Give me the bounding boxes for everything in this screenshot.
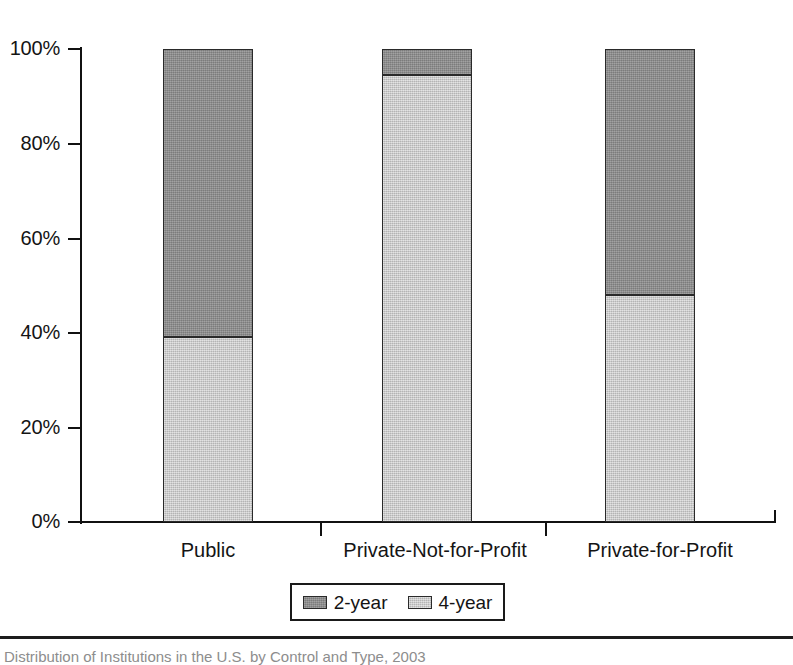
legend-label-4year: 4-year [439, 593, 493, 612]
legend-swatch-2year-icon [303, 596, 327, 609]
bar-segment-private-for-profit-2year [605, 49, 695, 295]
y-axis-label-80: 80% [0, 133, 60, 153]
y-axis-label-0: 0% [0, 511, 60, 531]
bar-segment-private-not-for-profit-2year [382, 49, 472, 75]
figure-caption: Distribution of Institutions in the U.S.… [4, 648, 784, 665]
y-axis-tick-60 [68, 238, 80, 240]
x-axis-start-cap [80, 510, 82, 523]
y-axis-line [80, 47, 82, 524]
x-axis-category-label-private-not-for-profit: Private-Not-for-Profit [330, 539, 540, 561]
x-axis-separator-2 [545, 523, 547, 536]
legend-entry-4year: 4-year [408, 593, 493, 612]
bar-private-not-for-profit [382, 49, 472, 522]
x-axis-separator-1 [320, 523, 322, 536]
legend-label-2year: 2-year [334, 593, 388, 612]
bar-segment-private-for-profit-4year [605, 295, 695, 522]
bar-private-for-profit [605, 49, 695, 522]
y-axis-tick-40 [68, 332, 80, 334]
y-axis-label-20: 20% [0, 417, 60, 437]
bar-public [163, 49, 253, 522]
bar-segment-public-2year [163, 49, 253, 337]
y-axis-tick-100 [68, 48, 80, 50]
chart-legend: 2-year 4-year [290, 583, 505, 621]
y-axis-label-40: 40% [0, 322, 60, 342]
y-axis-label-60: 60% [0, 228, 60, 248]
bar-segment-public-4year [163, 337, 253, 522]
x-axis-end-cap [774, 510, 776, 523]
y-axis-label-100: 100% [0, 38, 60, 58]
footer-divider [0, 636, 793, 639]
bar-segment-private-not-for-profit-4year [382, 75, 472, 522]
x-axis-category-label-public: Public [128, 539, 288, 561]
y-axis-tick-0 [68, 521, 80, 523]
y-axis-tick-80 [68, 143, 80, 145]
legend-entry-2year: 2-year [303, 593, 388, 612]
x-axis-category-label-private-for-profit: Private-for-Profit [560, 539, 760, 561]
legend-swatch-4year-icon [408, 596, 432, 609]
y-axis-tick-20 [68, 427, 80, 429]
